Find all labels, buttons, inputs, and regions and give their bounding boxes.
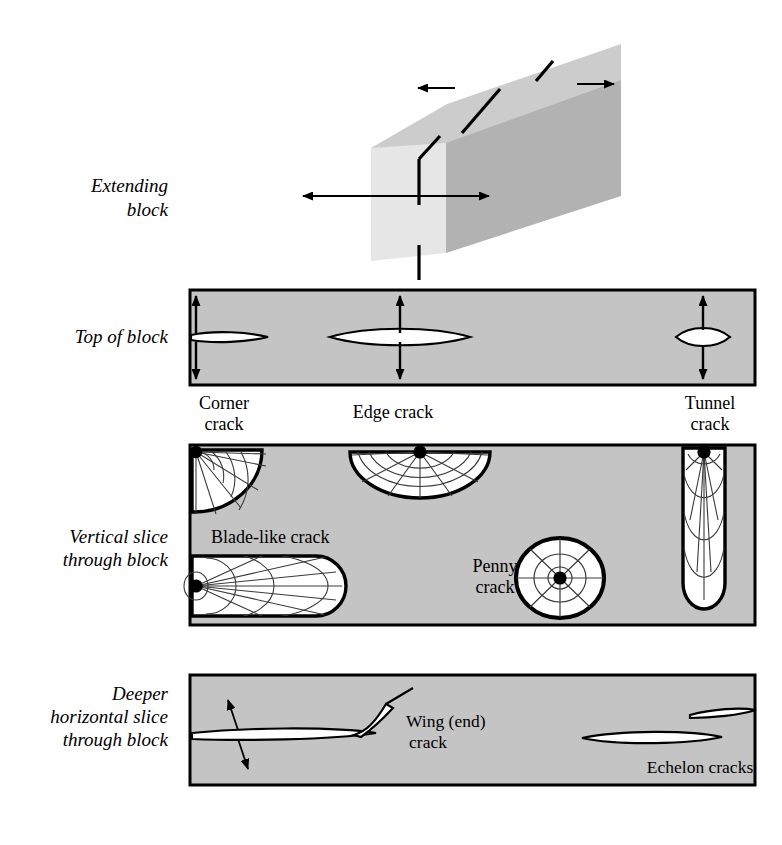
corner-crack-origin-dot (190, 446, 202, 458)
echelon-crack-lower (582, 732, 722, 743)
vertical-slice-label-line1: Vertical slice (69, 526, 168, 547)
edge-crack-origin-dot (413, 445, 426, 458)
crack-types-diagram: Extending block Top of block Corner crac… (0, 0, 782, 845)
deeper-slice-label-line1: Deeper (111, 683, 169, 704)
tunnel-crack-label-line2: crack (691, 414, 730, 434)
wing-crack-label-line2: crack (409, 732, 447, 752)
deeper-slice-label-line2: horizontal slice (50, 706, 168, 727)
extending-block-label-line2: block (127, 199, 169, 220)
blade-like-crack-origin-dot (189, 579, 202, 592)
corner-crack-label-line2: crack (205, 414, 244, 434)
top-of-block-label: Top of block (75, 326, 169, 347)
tunnel-crack-origin-dot (697, 445, 710, 458)
blade-like-crack-label: Blade-like crack (211, 527, 329, 547)
penny-crack-label-line1: Penny (473, 556, 518, 576)
deeper-slice-label-line3: through block (63, 729, 169, 750)
top-of-block-panel (190, 290, 755, 385)
corner-crack-label-line1: Corner (199, 393, 249, 413)
tunnel-crack-label-line1: Tunnel (685, 393, 735, 413)
penny-crack-origin-dot (553, 571, 566, 584)
tunnel-crack-section (683, 445, 725, 609)
wing-crack-label-line1: Wing (end) (406, 711, 486, 731)
block-front-face (371, 143, 446, 261)
vertical-slice-label-line2: through block (63, 549, 169, 570)
extending-block-label-line1: Extending (90, 175, 168, 196)
tunnel-crack-top-view (676, 328, 730, 346)
echelon-cracks-label: Echelon cracks (647, 757, 754, 777)
edge-crack-label: Edge crack (353, 402, 433, 422)
penny-crack-label-line2: crack (476, 577, 515, 597)
